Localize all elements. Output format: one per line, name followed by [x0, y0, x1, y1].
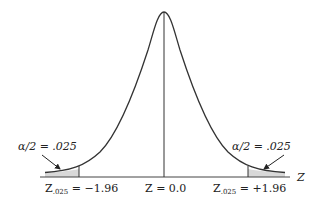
normal-curve-diagram: α/2 = .025 α/2 = .025 Z Z.025 = −1.96 Z …	[0, 0, 333, 204]
right-tail-arrow	[264, 155, 284, 169]
center-label: Z = 0.0	[145, 182, 186, 195]
left-critical-label: Z.025 = −1.96	[45, 182, 118, 196]
right-critical-label: Z.025 = +1.96	[213, 182, 286, 196]
axis-name-label: Z	[296, 171, 305, 184]
left-tail-arrow	[42, 155, 60, 169]
right-tail-label: α/2 = .025	[232, 140, 291, 153]
left-tail-label: α/2 = .025	[18, 140, 77, 153]
